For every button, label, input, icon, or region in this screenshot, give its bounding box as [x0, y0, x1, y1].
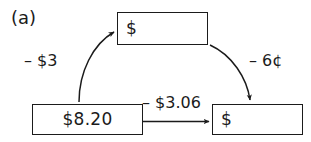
label-right-arrow: – 6¢ — [249, 53, 282, 69]
arrow-left-curve — [79, 32, 114, 102]
box-bottom-right[interactable]: $ — [212, 104, 303, 135]
box-top-value: $ — [126, 20, 137, 37]
box-bottom-right-value: $ — [221, 111, 232, 128]
box-bottom-left-value: $8.20 — [62, 111, 112, 128]
diagram-canvas: (a) $ $8.20 $ – $3 – 6¢ – $3.06 — [0, 0, 311, 142]
label-bottom-arrow: – $3.06 — [142, 95, 201, 111]
arrow-right-curve — [210, 45, 250, 100]
box-top[interactable]: $ — [117, 12, 208, 45]
label-left-arrow: – $3 — [24, 53, 57, 69]
box-bottom-left[interactable]: $8.20 — [32, 104, 143, 135]
figure-label: (a) — [11, 9, 36, 27]
